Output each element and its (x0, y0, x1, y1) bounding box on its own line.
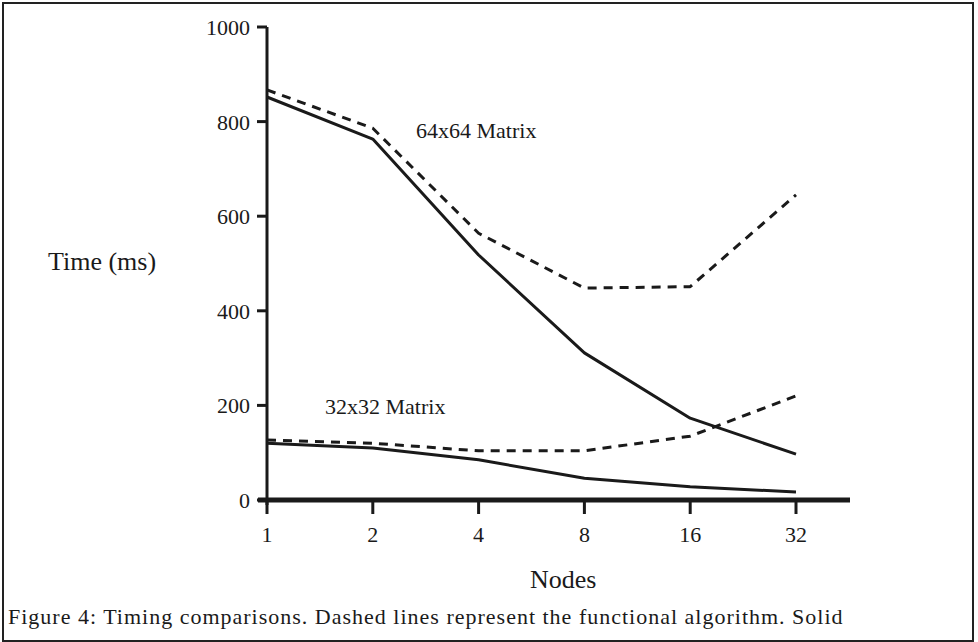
x-axis-title: Nodes (530, 565, 596, 594)
y-ticks: 02004006008001000 (206, 15, 267, 513)
y-tick-label: 600 (217, 204, 250, 229)
x-tick-label: 16 (679, 522, 701, 547)
y-tick-label: 800 (217, 110, 250, 135)
y-tick-label: 0 (239, 488, 250, 513)
y-axis-title: Time (ms) (48, 247, 156, 276)
x-tick-label: 1 (262, 522, 273, 547)
figure-caption: Figure 4: Timing comparisons. Dashed lin… (8, 604, 844, 630)
y-tick-label: 200 (217, 393, 250, 418)
x-tick-label: 8 (579, 522, 590, 547)
x-tick-label: 2 (367, 522, 378, 547)
y-tick-label: 1000 (206, 15, 250, 40)
x-ticks: 12481632 (262, 500, 808, 547)
x-tick-label: 4 (473, 522, 484, 547)
series-lines (267, 90, 796, 492)
x-tick-label: 32 (785, 522, 807, 547)
y-tick-label: 400 (217, 299, 250, 324)
series-label-32x32: 32x32 Matrix (325, 394, 445, 419)
series-label-64x64: 64x64 Matrix (416, 118, 536, 143)
